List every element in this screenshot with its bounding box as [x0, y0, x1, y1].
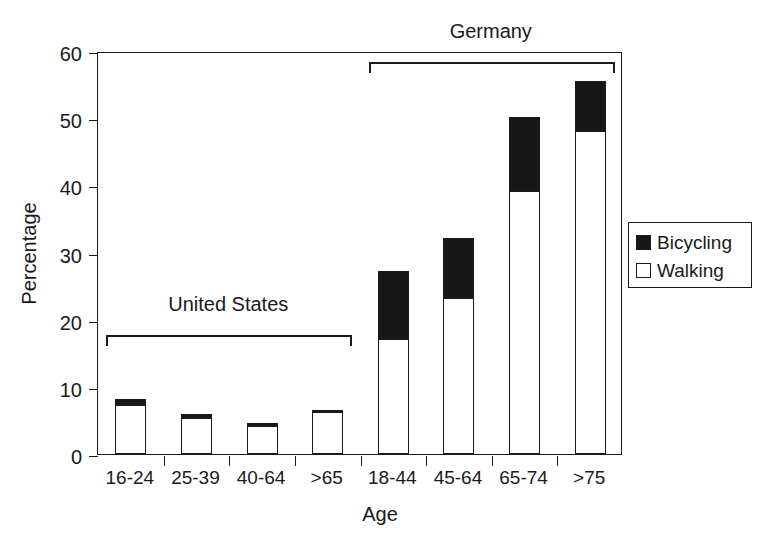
y-axis-tick-label: 10 [60, 380, 82, 400]
x-axis-tick-label: 65-74 [499, 468, 548, 487]
y-axis-tick-label: 60 [60, 44, 82, 64]
bar-segment-walking [247, 426, 278, 454]
y-axis-tick-label: 0 [71, 447, 82, 467]
bar-segment-bicycling [312, 410, 343, 413]
bar-segment-walking [575, 131, 606, 454]
y-axis-title-text: Percentage [18, 202, 41, 304]
y-axis-tick-label: 40 [60, 178, 82, 198]
x-axis-tick-label: 16-24 [106, 468, 155, 487]
legend-item: Bicycling [636, 228, 751, 256]
x-axis-title: Age [0, 503, 760, 526]
y-axis-tick: 60 [89, 53, 98, 54]
legend-swatch-filled-square-icon [636, 235, 651, 250]
bar-segment-walking [443, 298, 474, 454]
group-label: United States [168, 293, 288, 316]
x-axis-tick [361, 456, 362, 466]
y-axis-tick-label: 50 [60, 111, 82, 131]
x-axis-tick-label: 40-64 [237, 468, 286, 487]
bar [247, 423, 278, 454]
x-axis-title-text: Age [362, 503, 398, 525]
bar-segment-walking [181, 418, 212, 454]
legend-label: Walking [657, 261, 724, 280]
y-axis-title: Percentage [14, 52, 44, 455]
bar-segment-bicycling [247, 423, 278, 426]
bar [115, 399, 146, 454]
x-axis-tick-label: 18-44 [368, 468, 417, 487]
y-axis-tick-label: 30 [60, 246, 82, 266]
legend-item: Walking [636, 256, 751, 284]
stacked-bar-chart: Percentage 0102030405060 16-2425-3940-64… [0, 0, 760, 540]
group-bracket [369, 62, 615, 73]
x-axis-tick [426, 456, 427, 466]
x-axis-tick-label: 45-64 [434, 468, 483, 487]
bar-segment-walking [509, 191, 540, 454]
bar-segment-bicycling [509, 117, 540, 191]
x-axis-tick-label: >75 [573, 468, 605, 487]
y-axis-tick: 0 [89, 456, 98, 457]
x-axis-tick [557, 456, 558, 466]
bar-segment-bicycling [378, 271, 409, 339]
bar-segment-walking [312, 412, 343, 454]
x-axis-tick [229, 456, 230, 466]
bar-segment-bicycling [181, 414, 212, 418]
group-bracket [106, 335, 352, 346]
bar-segment-bicycling [443, 238, 474, 298]
chart-legend: BicyclingWalking [628, 222, 752, 288]
plot-area: 0102030405060 [97, 52, 622, 455]
y-axis-tick-label: 20 [60, 313, 82, 333]
bar-segment-walking [115, 405, 146, 454]
y-axis-tick: 10 [89, 389, 98, 390]
bar [575, 81, 606, 454]
y-axis-tick: 40 [89, 187, 98, 188]
y-axis-tick: 20 [89, 322, 98, 323]
bar [509, 117, 540, 454]
x-axis-tick [295, 456, 296, 466]
x-axis-tick-label: 25-39 [171, 468, 220, 487]
group-label: Germany [450, 20, 532, 43]
y-axis-tick: 50 [89, 120, 98, 121]
x-axis-tick [164, 456, 165, 466]
x-axis-tick-label: >65 [311, 468, 343, 487]
bar-segment-bicycling [115, 399, 146, 405]
legend-label: Bicycling [657, 233, 732, 252]
bar-segment-walking [378, 339, 409, 454]
bar [181, 414, 212, 454]
x-axis-tick [492, 456, 493, 466]
bar-segment-bicycling [575, 81, 606, 131]
y-axis-tick: 30 [89, 255, 98, 256]
bar [443, 238, 474, 454]
bar [378, 271, 409, 454]
bar [312, 410, 343, 454]
legend-swatch-hollow-square-icon [636, 263, 651, 278]
